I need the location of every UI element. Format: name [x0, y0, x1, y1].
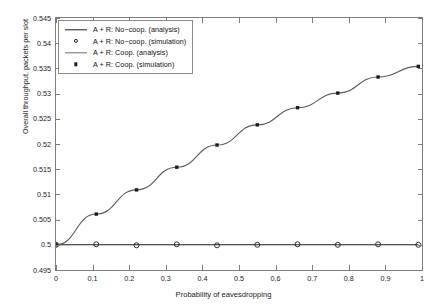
- y-axis-label: Overall throughput, packets per slot: [21, 0, 30, 162]
- y-tick-mark: [418, 144, 423, 145]
- y-tick-mark: [418, 68, 423, 69]
- y-tick-mark: [55, 220, 60, 221]
- x-tick-label: 0.3: [161, 274, 171, 283]
- legend: A + R: No−coop. (analysis) A + R: No−coo…: [58, 20, 193, 74]
- x-tick-mark: [385, 265, 386, 270]
- chart-figure: 0.4950.50.5050.510.5150.520.5250.530.535…: [0, 0, 447, 307]
- legend-filled-dot-icon: [63, 59, 89, 70]
- legend-item: A + R: No−coop. (simulation): [63, 36, 186, 48]
- y-tick-label: 0.505: [0, 215, 51, 224]
- x-tick-mark: [312, 265, 313, 270]
- legend-item-label: A + R: Coop. (simulation): [93, 60, 174, 69]
- x-tick-mark: [56, 18, 57, 23]
- y-tick-mark: [55, 194, 60, 195]
- x-tick-mark: [166, 265, 167, 270]
- x-tick-label: 0.1: [88, 274, 98, 283]
- x-tick-mark: [422, 18, 423, 23]
- x-tick-mark: [202, 265, 203, 270]
- y-tick-mark: [418, 245, 423, 246]
- y-tick-mark: [55, 169, 60, 170]
- y-tick-mark: [418, 43, 423, 44]
- x-tick-mark: [239, 18, 240, 23]
- data-point-marker: [376, 75, 379, 78]
- data-point-marker: [336, 91, 339, 94]
- data-point-marker: [256, 123, 259, 126]
- x-tick-mark: [385, 18, 386, 23]
- x-tick-mark: [312, 18, 313, 23]
- y-tick-label: 0.495: [0, 266, 51, 275]
- legend-item-label: A + R: Coop. (analysis): [93, 48, 168, 57]
- x-tick-label: 0.5: [234, 274, 244, 283]
- y-tick-label: 0.5: [0, 240, 51, 249]
- x-tick-mark: [276, 265, 277, 270]
- x-tick-label: 0.7: [307, 274, 317, 283]
- legend-item-label: A + R: No−coop. (simulation): [93, 37, 186, 46]
- y-tick-mark: [418, 169, 423, 170]
- x-tick-label: 1: [420, 274, 424, 283]
- y-tick-mark: [55, 270, 60, 271]
- x-tick-label: 0.6: [271, 274, 281, 283]
- data-point-marker: [175, 165, 178, 168]
- legend-item-label: A + R: No−coop. (analysis): [93, 25, 180, 34]
- legend-item: A + R: Coop. (simulation): [63, 59, 186, 71]
- x-axis-label: Probability of eavesdropping: [0, 290, 447, 299]
- x-tick-mark: [56, 265, 57, 270]
- data-point-marker: [215, 143, 218, 146]
- x-tick-mark: [349, 18, 350, 23]
- y-tick-mark: [55, 94, 60, 95]
- y-tick-mark: [55, 119, 60, 120]
- legend-line-icon: [63, 47, 89, 58]
- y-tick-mark: [418, 119, 423, 120]
- data-point-marker: [95, 212, 98, 215]
- y-tick-mark: [55, 144, 60, 145]
- y-tick-mark: [418, 270, 423, 271]
- x-tick-mark: [239, 265, 240, 270]
- x-tick-label: 0: [54, 274, 58, 283]
- x-tick-label: 0.9: [380, 274, 390, 283]
- y-tick-mark: [418, 94, 423, 95]
- legend-open-circle-icon: [63, 36, 89, 47]
- x-tick-mark: [93, 265, 94, 270]
- x-tick-label: 0.2: [124, 274, 134, 283]
- x-tick-mark: [349, 265, 350, 270]
- y-tick-label: 0.515: [0, 165, 51, 174]
- series-line: [56, 66, 418, 244]
- y-tick-label: 0.51: [0, 190, 51, 199]
- x-tick-mark: [129, 265, 130, 270]
- legend-line-icon: [63, 24, 89, 35]
- data-point-marker: [296, 106, 299, 109]
- data-point-marker: [135, 188, 138, 191]
- x-tick-mark: [276, 18, 277, 23]
- y-tick-mark: [418, 194, 423, 195]
- y-tick-mark: [418, 220, 423, 221]
- legend-item: A + R: No−coop. (analysis): [63, 24, 186, 36]
- x-tick-mark: [202, 18, 203, 23]
- x-tick-mark: [422, 265, 423, 270]
- x-tick-label: 0.4: [197, 274, 207, 283]
- y-tick-mark: [55, 245, 60, 246]
- legend-item: A + R: Coop. (analysis): [63, 47, 186, 59]
- x-tick-label: 0.8: [344, 274, 354, 283]
